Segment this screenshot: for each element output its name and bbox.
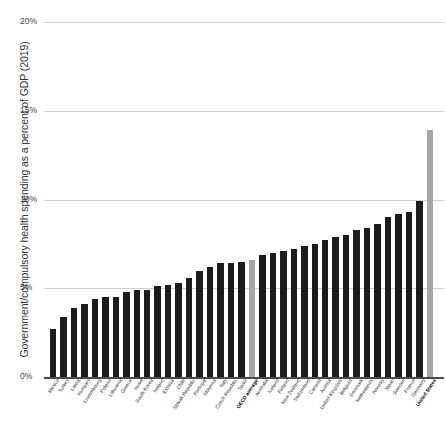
- bar[interactable]: [395, 214, 401, 377]
- bar[interactable]: [353, 230, 359, 377]
- bar[interactable]: [270, 253, 276, 377]
- plot-area: [44, 22, 444, 377]
- x-axis-labels: MexicoTurkeyLatviaHungaryLuxembourgPolan…: [44, 378, 446, 433]
- y-tick-label: 15%: [20, 106, 42, 115]
- bar[interactable]: [291, 249, 297, 377]
- bar[interactable]: [154, 286, 160, 377]
- bar[interactable]: [312, 244, 318, 377]
- bar[interactable]: [364, 228, 370, 377]
- y-tick-label: 5%: [20, 283, 42, 292]
- bar[interactable]: [259, 255, 265, 377]
- bar[interactable]: [134, 290, 140, 377]
- bar-series: [44, 22, 444, 377]
- bar[interactable]: [81, 304, 87, 377]
- bar[interactable]: [385, 217, 391, 377]
- bar[interactable]: [196, 271, 202, 378]
- bar[interactable]: [71, 308, 77, 377]
- bar[interactable]: [92, 299, 98, 377]
- bar[interactable]: [322, 240, 328, 377]
- bar[interactable]: [165, 285, 171, 377]
- bar[interactable]: [60, 317, 66, 377]
- bar[interactable]: [123, 292, 129, 377]
- bar[interactable]: [217, 263, 223, 377]
- y-tick-label: 10%: [20, 195, 42, 204]
- bar[interactable]: [301, 246, 307, 377]
- bar[interactable]: [406, 212, 412, 377]
- bar[interactable]: [144, 290, 150, 377]
- bar[interactable]: [186, 278, 192, 377]
- y-tick-label: 20%: [20, 17, 42, 26]
- bar-chart: Government/compulsory health spending as…: [0, 0, 446, 433]
- bar[interactable]: [207, 267, 213, 377]
- bar[interactable]: [280, 251, 286, 377]
- bar[interactable]: [228, 263, 234, 377]
- bar[interactable]: [113, 297, 119, 377]
- bar[interactable]: [175, 283, 181, 377]
- bar[interactable]: [427, 130, 433, 377]
- y-tick-label: 0%: [20, 372, 42, 381]
- bar[interactable]: [343, 235, 349, 377]
- bar[interactable]: [374, 224, 380, 377]
- bar[interactable]: [238, 262, 244, 377]
- bar[interactable]: [416, 201, 422, 377]
- bar[interactable]: [102, 297, 108, 377]
- bar[interactable]: [249, 260, 255, 377]
- bar[interactable]: [50, 329, 56, 377]
- bar[interactable]: [332, 237, 338, 377]
